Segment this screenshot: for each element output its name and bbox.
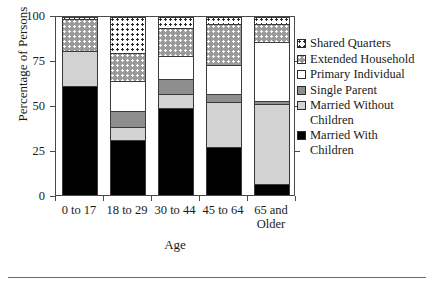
legend-label: Shared Quarters [310, 36, 391, 51]
bar-segment [110, 81, 146, 111]
bar-segment [110, 53, 146, 81]
bar-segment [206, 24, 242, 65]
plot-area [56, 17, 294, 195]
legend-swatch-icon [297, 70, 306, 79]
footer-divider [8, 277, 426, 278]
y-tick-mark [50, 106, 56, 107]
legend-item: Single Parent [297, 83, 433, 98]
bar-segment [158, 28, 194, 56]
bar-segment [158, 79, 194, 93]
x-tick-mark [103, 196, 104, 201]
y-axis-title: Percentage of Persons [15, 0, 31, 149]
bar-0-to-17 [62, 17, 98, 195]
bar-segment [254, 104, 290, 184]
legend-label: Primary Individual [310, 67, 405, 82]
legend-swatch-icon [297, 55, 306, 64]
legend-label: Extended Household [310, 52, 415, 67]
stacked-bar-chart-figure: 0255075100 0 to 1718 to 2930 to 4445 to … [0, 0, 434, 288]
bar-segment [110, 140, 146, 195]
x-axis-title: Age [55, 237, 295, 253]
bar-segment [158, 17, 194, 28]
bar-segment [254, 24, 290, 42]
bar-45-to-64 [206, 17, 242, 195]
bar-segment [206, 17, 242, 24]
bar-segment [158, 56, 194, 79]
bar-segment [62, 17, 98, 19]
y-tick-mark [50, 16, 56, 17]
x-tick-mark [295, 196, 296, 201]
bar-18-to-29 [110, 17, 146, 195]
x-tick-mark [199, 196, 200, 201]
bar-segment [206, 65, 242, 93]
legend-item: Married With Children [297, 128, 433, 157]
bar-segment [254, 42, 290, 101]
bar-segment [62, 86, 98, 195]
bar-segment [62, 19, 98, 51]
y-tick-mark [50, 151, 56, 152]
legend-item: Married Without Children [297, 98, 433, 127]
bar-segment [110, 127, 146, 139]
x-tick-mark [55, 196, 56, 201]
legend-label: Single Parent [310, 83, 377, 98]
bar-segment [254, 17, 290, 24]
legend-label: Married With Children [310, 128, 378, 157]
legend-item: Extended Household [297, 52, 433, 67]
bar-segment [206, 102, 242, 147]
bar-segment [110, 17, 146, 53]
plot-frame [55, 16, 295, 196]
bar-segment [158, 108, 194, 195]
legend-item: Primary Individual [297, 67, 433, 82]
bar-segment [254, 184, 290, 195]
bar-segment [206, 94, 242, 103]
bar-segment [206, 147, 242, 195]
legend-swatch-icon [297, 101, 306, 110]
x-tick-label: 65 and Older [240, 203, 302, 231]
x-tick-mark [247, 196, 248, 201]
legend-swatch-icon [297, 39, 306, 48]
bar-segment [62, 51, 98, 87]
y-tick-mark [50, 61, 56, 62]
bar-65-and-older [254, 17, 290, 195]
chart-legend: Shared QuartersExtended HouseholdPrimary… [297, 36, 433, 158]
y-tick-label: 0 [0, 190, 45, 203]
bar-segment [254, 101, 290, 105]
legend-swatch-icon [297, 131, 306, 140]
bar-30-to-44 [158, 17, 194, 195]
x-tick-mark [151, 196, 152, 201]
legend-label: Married Without Children [310, 98, 394, 127]
legend-swatch-icon [297, 86, 306, 95]
legend-item: Shared Quarters [297, 36, 433, 51]
bar-segment [158, 94, 194, 108]
bar-segment [110, 111, 146, 127]
